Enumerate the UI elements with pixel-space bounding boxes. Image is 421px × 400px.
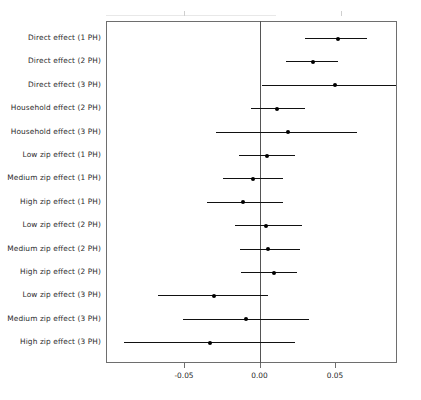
estimate-point	[208, 341, 212, 345]
estimate-point	[336, 37, 340, 41]
zero-reference-line	[260, 21, 261, 363]
confidence-interval	[235, 225, 302, 226]
estimate-point	[272, 271, 276, 275]
row-label: Medium zip effect (1 PH)	[0, 174, 101, 181]
row-label: Low zip effect (3 PH)	[0, 291, 101, 298]
estimate-point	[212, 294, 216, 298]
estimate-point	[311, 60, 315, 64]
estimate-point	[251, 177, 255, 181]
row-label: Medium zip effect (3 PH)	[0, 315, 101, 322]
estimate-point	[265, 154, 269, 158]
x-axis-tick-label: 0.05	[315, 372, 355, 379]
row-label: Direct effect (1 PH)	[0, 34, 101, 41]
estimate-point	[275, 107, 279, 111]
x-axis-tick-label: 0.00	[240, 372, 280, 379]
confidence-interval	[240, 249, 300, 250]
x-axis-tick	[260, 363, 261, 368]
forest-plot: Direct effect (1 PH)Direct effect (2 PH)…	[0, 0, 421, 400]
row-label: High zip effect (2 PH)	[0, 268, 101, 275]
top-artifact-tick-right	[341, 11, 342, 16]
row-label: Medium zip effect (2 PH)	[0, 245, 101, 252]
x-axis-tick	[184, 363, 185, 368]
row-label: Low zip effect (2 PH)	[0, 221, 101, 228]
top-artifact-tick-left	[184, 11, 185, 16]
row-label: Direct effect (2 PH)	[0, 57, 101, 64]
confidence-interval	[262, 85, 396, 86]
estimate-point	[264, 224, 268, 228]
confidence-interval	[241, 272, 297, 273]
row-label: High zip effect (1 PH)	[0, 198, 101, 205]
x-axis-tick	[335, 363, 336, 368]
plot-frame	[106, 21, 397, 363]
row-label: Low zip effect (1 PH)	[0, 151, 101, 158]
row-label: Household effect (3 PH)	[0, 128, 101, 135]
row-label: High zip effect (3 PH)	[0, 338, 101, 345]
top-artifact-line	[106, 15, 276, 16]
x-axis-tick-label: -0.05	[164, 372, 204, 379]
row-label: Direct effect (3 PH)	[0, 81, 101, 88]
row-label: Household effect (2 PH)	[0, 104, 101, 111]
